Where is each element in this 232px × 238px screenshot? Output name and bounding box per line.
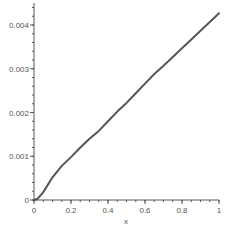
x-tick-label: 0.4	[102, 206, 114, 215]
x-tick-label: 0.8	[176, 206, 188, 215]
chart-canvas: 00.0010.0020.0030.004 00.20.40.60.81 x	[0, 0, 232, 238]
data-line	[34, 13, 219, 200]
line-chart: 00.0010.0020.0030.004 00.20.40.60.81 x	[0, 0, 232, 238]
y-tick-label: 0.003	[9, 65, 30, 74]
y-tick-label: 0.004	[9, 21, 30, 30]
x-tick-label: 0.2	[65, 206, 77, 215]
x-axis: 00.20.40.60.81	[32, 200, 222, 215]
y-tick-label: 0.002	[9, 109, 30, 118]
x-tick-label: 1	[217, 206, 222, 215]
x-axis-label: x	[124, 217, 128, 226]
x-tick-label: 0	[32, 206, 37, 215]
y-tick-label: 0.001	[9, 152, 30, 161]
y-tick-label: 0	[25, 196, 30, 205]
y-axis: 00.0010.0020.0030.004	[9, 3, 34, 205]
x-tick-label: 0.6	[139, 206, 151, 215]
